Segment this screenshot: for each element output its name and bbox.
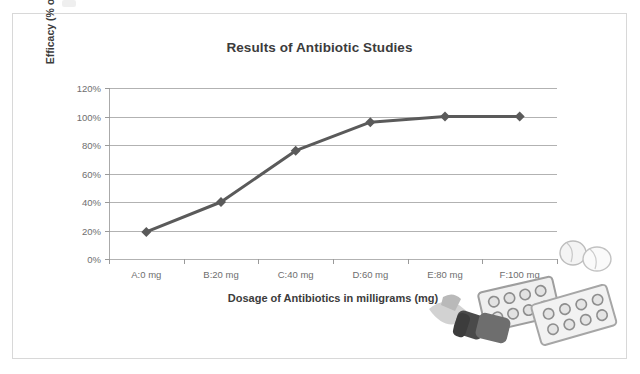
data-point-marker-E:80 mg [440, 112, 450, 122]
chart-title: Results of Antibiotic Studies [13, 40, 626, 55]
y-axis-label: 80% [82, 140, 101, 151]
x-tick [333, 259, 334, 264]
x-axis-label-5: E:80 mg [427, 269, 462, 280]
x-tick [184, 259, 185, 264]
y-axis-label: 20% [82, 225, 101, 236]
x-tick [408, 259, 409, 264]
x-axis-label-4: D:60 mg [352, 269, 388, 280]
x-axis-title: Dosage of Antibiotics in milligrams (mg) [109, 292, 557, 304]
y-axis-title: Efficacy (% of participants cured) [43, 0, 57, 76]
y-axis-label: 60% [82, 168, 101, 179]
x-tick [258, 259, 259, 264]
x-tick [557, 259, 558, 264]
page-top-artifact [62, 0, 76, 7]
x-axis-label-1: A:0 mg [131, 269, 161, 280]
x-tick [109, 259, 110, 264]
plot-area: 0%20%40%60%80%100%120% A:0 mgB:20 mgC:40… [109, 88, 557, 259]
y-axis-label: 120% [77, 83, 101, 94]
chart-frame: Results of Antibiotic Studies 0%20%40%60… [12, 13, 627, 359]
x-axis-label-6: F:100 mg [500, 269, 540, 280]
x-tick [482, 259, 483, 264]
data-point-marker-F:100 mg [515, 112, 525, 122]
x-axis-label-2: B:20 mg [203, 269, 238, 280]
y-axis-label: 40% [82, 197, 101, 208]
x-axis-label-3: C:40 mg [278, 269, 314, 280]
y-axis-label: 0% [87, 254, 101, 265]
series-line-efficacy [109, 88, 557, 259]
y-axis-label: 100% [77, 111, 101, 122]
data-point-marker-D:60 mg [365, 117, 375, 127]
data-point-marker-A:0 mg [141, 227, 151, 237]
